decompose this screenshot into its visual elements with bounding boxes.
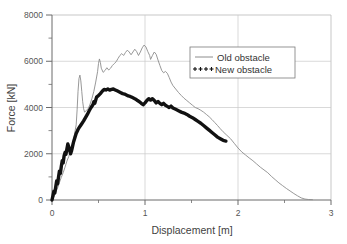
x-tick-label-3: 3	[329, 208, 334, 218]
y-tick-label-6000: 6000	[24, 56, 43, 66]
y-tick-label-4000: 4000	[24, 103, 43, 113]
y-tick-label-2000: 2000	[24, 149, 43, 159]
legend[interactable]: Old obstacle New obstacle	[190, 47, 295, 78]
force-displacement-chart: 8000 6000 4000 2000 0 0 1 2 3 Displaceme…	[0, 0, 347, 244]
x-tick-label-0: 0	[50, 208, 55, 218]
legend-label-old-obstacle: Old obstacle	[217, 52, 270, 63]
x-tick-label-2: 2	[236, 208, 241, 218]
chart-figure: 8000 6000 4000 2000 0 0 1 2 3 Displaceme…	[0, 0, 347, 244]
x-tick-label-1: 1	[143, 208, 148, 218]
legend-label-new-obstacle: New obstacle	[215, 64, 272, 75]
y-tick-label-0: 0	[38, 195, 43, 205]
x-axis-title: Displacement [m]	[151, 224, 232, 236]
y-tick-label-8000: 8000	[24, 10, 43, 20]
y-axis-title: Force [kN]	[5, 84, 17, 133]
